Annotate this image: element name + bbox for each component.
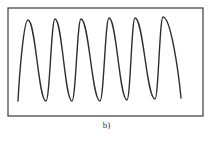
- figure-caption: b): [0, 119, 213, 131]
- waveform-curve: [18, 17, 181, 101]
- waveform-figure: b): [0, 0, 213, 142]
